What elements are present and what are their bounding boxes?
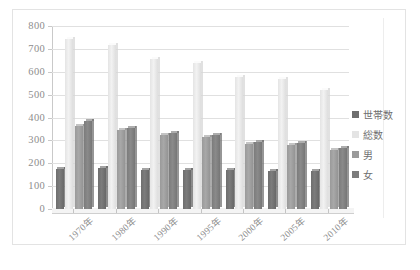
y-axis-tick xyxy=(48,26,52,27)
legend-item-label: 男 xyxy=(363,147,373,162)
bar-face xyxy=(339,148,347,209)
bar-face xyxy=(169,133,177,209)
legend-item-男[interactable]: 男 xyxy=(352,144,393,164)
bar-女 xyxy=(127,128,135,209)
bar-face xyxy=(254,142,262,209)
bar-side xyxy=(177,131,179,207)
legend-item-世帯数[interactable]: 世帯数 xyxy=(352,104,393,124)
bar-face xyxy=(212,135,220,209)
bar-総数 xyxy=(193,63,201,209)
bar-総数 xyxy=(108,45,116,209)
bar-女 xyxy=(169,133,177,209)
bar-総数 xyxy=(235,77,243,209)
bar-face xyxy=(202,137,210,209)
bar-男 xyxy=(75,126,83,209)
chart-caption xyxy=(0,258,420,268)
bar-face xyxy=(160,135,168,209)
bar-face xyxy=(127,128,135,209)
legend-swatch-icon xyxy=(352,111,359,118)
bar-総数 xyxy=(320,90,328,209)
bar-face xyxy=(278,79,286,209)
y-axis-tick xyxy=(48,72,52,73)
bar-女 xyxy=(339,148,347,209)
legend-item-label: 総数 xyxy=(363,127,383,142)
legend-item-女[interactable]: 女 xyxy=(352,164,393,184)
bar-face xyxy=(141,170,149,209)
bar-side xyxy=(135,126,137,207)
bar-face xyxy=(193,63,201,209)
chart-screenshot: 01002003004005006007008001970年1980年1990年… xyxy=(0,0,420,270)
bar-group xyxy=(183,26,220,209)
bar-世帯数 xyxy=(141,170,149,209)
bar-世帯数 xyxy=(268,171,276,209)
bar-男 xyxy=(160,135,168,209)
y-axis-tick-label: 800 xyxy=(28,20,45,31)
bar-face xyxy=(330,150,338,209)
bar-group xyxy=(268,26,305,209)
bar-side xyxy=(262,140,264,207)
bar-side xyxy=(347,146,349,207)
bar-世帯数 xyxy=(56,169,64,209)
bar-side xyxy=(305,141,307,207)
y-axis-tick-label: 200 xyxy=(28,158,45,169)
bar-face xyxy=(75,126,83,209)
y-axis-tick-label: 600 xyxy=(28,66,45,77)
y-axis-tick-label: 400 xyxy=(28,112,45,123)
x-axis-tick xyxy=(243,209,244,213)
bar-face xyxy=(287,145,295,209)
x-axis-tick xyxy=(328,209,329,213)
y-axis-tick-label: 0 xyxy=(39,203,45,214)
bar-face xyxy=(311,171,319,209)
bar-女 xyxy=(254,142,262,209)
bar-face xyxy=(150,59,158,209)
y-axis-tick xyxy=(48,209,52,210)
bar-総数 xyxy=(65,39,73,209)
bar-男 xyxy=(287,145,295,209)
bar-男 xyxy=(117,130,125,209)
bar-face xyxy=(108,45,116,209)
bar-group xyxy=(141,26,178,209)
bar-group xyxy=(98,26,135,209)
y-axis-tick xyxy=(48,163,52,164)
plot-area: 01002003004005006007008001970年1980年1990年… xyxy=(52,26,349,209)
x-axis-tick xyxy=(285,209,286,213)
bar-face xyxy=(268,171,276,209)
bar-男 xyxy=(245,144,253,209)
bar-face xyxy=(56,169,64,209)
y-axis-tick xyxy=(48,118,52,119)
bar-世帯数 xyxy=(183,170,191,209)
bar-世帯数 xyxy=(311,171,319,209)
bar-group xyxy=(226,26,263,209)
bar-女 xyxy=(297,143,305,209)
bar-face xyxy=(235,77,243,209)
bar-face xyxy=(98,168,106,209)
y-axis-tick-label: 700 xyxy=(28,43,45,54)
bar-face xyxy=(65,39,73,209)
legend-swatch-icon xyxy=(352,151,359,158)
legend-item-label: 女 xyxy=(363,167,373,182)
bar-group xyxy=(56,26,93,209)
y-axis-tick xyxy=(48,186,52,187)
bar-face xyxy=(183,170,191,209)
bar-side xyxy=(220,133,222,207)
bar-group xyxy=(311,26,348,209)
x-axis-tick xyxy=(201,209,202,213)
y-axis-tick-label: 300 xyxy=(28,135,45,146)
bar-side xyxy=(92,119,94,207)
bar-face xyxy=(297,143,305,209)
y-axis-tick xyxy=(48,49,52,50)
bar-face xyxy=(84,121,92,209)
legend-item-総数[interactable]: 総数 xyxy=(352,124,393,144)
chart-legend: 世帯数総数男女 xyxy=(352,104,393,184)
legend-swatch-icon xyxy=(352,171,359,178)
bar-世帯数 xyxy=(98,168,106,209)
bar-男 xyxy=(202,137,210,209)
bar-総数 xyxy=(278,79,286,209)
bar-女 xyxy=(212,135,220,209)
bar-世帯数 xyxy=(226,170,234,209)
bar-女 xyxy=(84,121,92,209)
bar-face xyxy=(117,130,125,209)
bar-face xyxy=(245,144,253,209)
bar-男 xyxy=(330,150,338,209)
y-axis-tick xyxy=(48,95,52,96)
